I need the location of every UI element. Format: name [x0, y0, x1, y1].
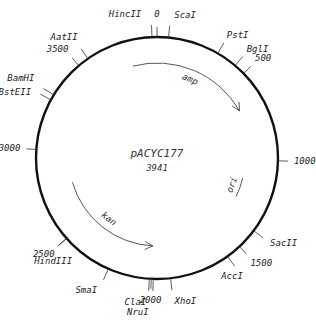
site-label-smai: SmaI: [75, 285, 97, 295]
scale-tick: [244, 66, 251, 73]
site-tick: [235, 56, 243, 65]
site-label-hincii: HincII: [108, 9, 142, 19]
site-label-nrui: NruI: [126, 307, 149, 317]
site-tick: [104, 269, 109, 280]
site-tick: [44, 89, 54, 95]
site-tick: [58, 238, 67, 246]
site-label-bgli: BglI: [247, 44, 269, 54]
site-label-aatii: AatII: [50, 32, 79, 42]
scale-label: 3500: [46, 44, 69, 54]
feature-label-kan: kan: [99, 210, 118, 228]
feature-label-ori: ori: [224, 175, 239, 194]
scale-tick: [26, 149, 36, 150]
site-label-hindiii: HindIII: [33, 256, 73, 266]
site-tick: [169, 26, 170, 38]
site-label-acci: AccI: [220, 271, 243, 281]
site-label-sacii: SacII: [270, 238, 298, 248]
site-tick: [254, 231, 264, 238]
site-tick: [228, 256, 235, 266]
site-tick: [149, 279, 150, 291]
site-label-xhoi: XhoI: [174, 296, 197, 306]
site-label-bamhi: BamHI: [7, 73, 35, 83]
site-tick: [218, 43, 224, 53]
site-label-scai: ScaI: [174, 10, 196, 20]
feature-label-amp: amp: [181, 71, 200, 87]
site-tick: [40, 94, 51, 100]
scale-label: 500: [255, 53, 271, 63]
plasmid-size: 3941: [145, 163, 168, 173]
site-tick: [171, 278, 172, 290]
scale-label: 1000: [294, 156, 316, 166]
plasmid-name: pACYC177: [130, 147, 184, 160]
scale-tick: [72, 58, 78, 66]
scale-label: 0: [154, 9, 159, 19]
scale-label: 3000: [0, 143, 20, 153]
site-tick: [81, 49, 88, 59]
feature-arc-amp: [133, 63, 240, 111]
site-label-psti: PstI: [227, 30, 249, 40]
site-label-clai: ClaI: [125, 297, 147, 307]
plasmid-map: 0500100015002000250030003500HincIIScaIPs…: [0, 0, 316, 334]
scale-tick: [239, 247, 246, 254]
site-label-bsteii: BstEII: [0, 87, 32, 97]
scale-label: 1500: [250, 258, 272, 268]
